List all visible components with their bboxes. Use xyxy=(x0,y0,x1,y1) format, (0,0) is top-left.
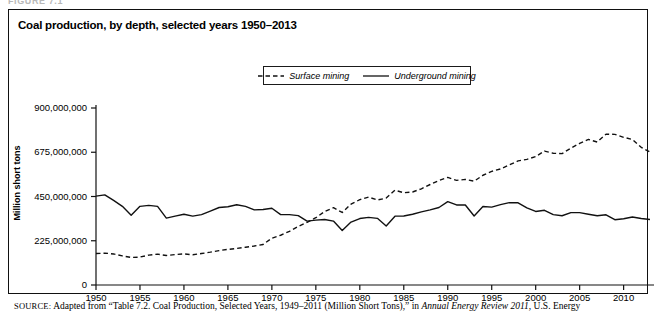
chart-series xyxy=(96,134,650,257)
source-text-before: Adapted from “Table 7.2. Coal Production… xyxy=(51,301,421,311)
source-note: SOURCE: Adapted from “Table 7.2. Coal Pr… xyxy=(14,300,654,312)
source-publication: Annual Energy Review 2011 xyxy=(421,301,528,311)
source-text-after: , U.S. Energy xyxy=(529,301,580,311)
y-tick-label: 900,000,000 xyxy=(0,102,87,113)
y-tick-label: 225,000,000 xyxy=(0,235,87,246)
chart-plot-area xyxy=(0,0,660,318)
series-line-surface-mining xyxy=(96,134,650,257)
y-tick-label: 450,000,000 xyxy=(0,191,87,202)
chart-axes xyxy=(91,105,654,290)
source-kicker: SOURCE: xyxy=(14,301,51,311)
y-tick-label: 0 xyxy=(0,279,87,290)
y-tick-label: 675,000,000 xyxy=(0,146,87,157)
figure-root: FIGURE 7.1 Coal production, by depth, se… xyxy=(0,0,660,318)
series-line-underground-mining xyxy=(96,195,650,231)
